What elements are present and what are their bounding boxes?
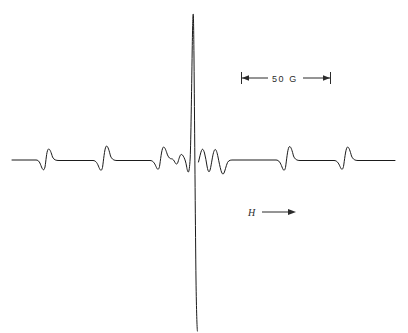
scale-bar-arrowhead-right [323,75,330,81]
spectrum-trace-left [12,14,197,331]
scale-bar-label: 50 G [272,74,298,84]
scale-bar-arrowhead-left [242,75,249,81]
spectrum-plot: 50 G H [0,0,408,333]
spectrum-trace-right [199,147,396,174]
field-axis-label: H [247,207,256,218]
epr-spectrum-figure: 50 G H [0,0,408,333]
field-axis-arrowhead [288,209,296,215]
